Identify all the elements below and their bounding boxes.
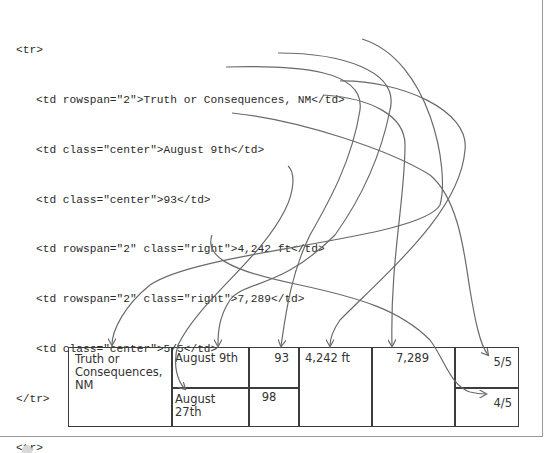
pencil-icon — [22, 445, 32, 453]
arrow-elevation — [330, 81, 465, 346]
arrow-rating2 — [211, 235, 486, 394]
arrow-population — [323, 95, 405, 346]
arrow-temp1 — [226, 67, 360, 346]
mapping-arrows — [0, 0, 553, 453]
